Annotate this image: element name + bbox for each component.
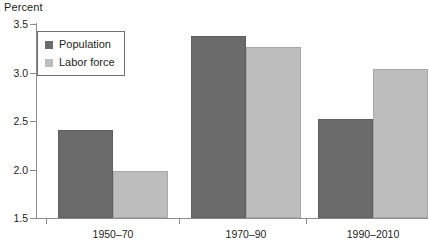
legend-swatch-labor-force xyxy=(45,59,53,67)
bar-labor-force-2 xyxy=(373,69,428,218)
y-tick-label: 2.0 xyxy=(0,164,28,176)
y-tick-label: 1.5 xyxy=(0,212,28,224)
x-tick-mark xyxy=(46,218,47,224)
x-tick-label: 1970–90 xyxy=(226,228,267,240)
x-tick-label: 1950–70 xyxy=(93,228,134,240)
legend-label-population: Population xyxy=(59,39,111,50)
bar-labor-force-0 xyxy=(113,171,168,218)
bar-population-2 xyxy=(318,119,373,218)
legend-swatch-population xyxy=(45,41,53,49)
y-axis-title: Percent xyxy=(4,1,43,13)
legend-item-labor-force: Labor force xyxy=(45,55,115,70)
x-tick-mark xyxy=(179,218,180,224)
legend-item-population: Population xyxy=(45,37,115,52)
x-tick-label: 1990–2010 xyxy=(347,228,400,240)
bar-population-1 xyxy=(191,36,246,218)
y-tick-label: 3.5 xyxy=(0,18,28,30)
y-tick-label: 2.5 xyxy=(0,115,28,127)
legend-label-labor-force: Labor force xyxy=(59,57,115,68)
bar-labor-force-1 xyxy=(246,47,301,218)
bar-population-0 xyxy=(58,130,113,218)
x-axis-line xyxy=(30,218,428,219)
chart-legend: Population Labor force xyxy=(37,31,125,76)
y-tick-label: 3.0 xyxy=(0,67,28,79)
bar-chart-figure: Percent 1.52.02.53.03.5 1950–701970–9019… xyxy=(0,0,429,251)
y-tick-mark xyxy=(30,218,36,219)
x-tick-mark xyxy=(306,218,307,224)
